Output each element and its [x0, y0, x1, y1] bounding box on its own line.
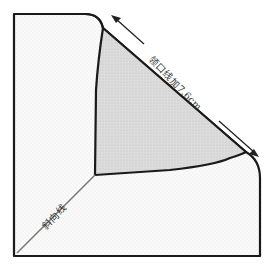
pattern-diagram [0, 0, 278, 273]
folded-flap [95, 28, 246, 175]
diagram-canvas: 领口线加7.6cm 斜向线 [0, 0, 278, 273]
arrow-line-upper [116, 19, 144, 44]
